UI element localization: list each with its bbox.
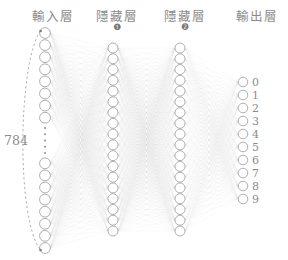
header-label-input-layer: 輸入層 [18,6,88,25]
output-node-label: 6 [252,155,259,166]
neural-network-diagram [0,0,288,260]
hidden1-node [108,183,118,193]
hidden2-node [175,108,185,118]
hidden2-node [175,86,185,96]
input-ellipsis-dot [44,152,46,154]
output-node-label: 8 [252,181,259,192]
output-node-label: 4 [252,129,259,140]
hidden1-node [108,108,118,118]
input-node [40,28,51,39]
hidden2-node [175,118,185,128]
output-node [238,194,248,204]
brace-endpoint [39,30,42,33]
hidden1-node [108,194,118,204]
hidden2-node [175,215,185,225]
hidden1-node [108,97,118,107]
input-ellipsis-dot [44,146,46,148]
input-node [40,76,51,87]
hidden2-node [175,43,185,53]
output-node [238,103,248,113]
input-node [40,194,51,205]
output-node-label: 2 [252,103,259,114]
hidden1-node [108,172,118,182]
output-node-label: 7 [252,168,259,179]
input-node [40,52,51,63]
input-ellipsis-dot [44,127,46,129]
hidden2-node [175,151,185,161]
brace-endpoint [39,249,42,252]
input-node [40,112,51,123]
hidden1-node [108,151,118,161]
hidden2-node [175,183,185,193]
hidden1-node [108,140,118,150]
hidden1-node [108,215,118,225]
hidden1-node [108,75,118,85]
hidden1-node [108,118,118,128]
hidden2-node [175,54,185,64]
hidden1-node [108,86,118,96]
output-node [238,142,248,152]
output-node-label: 1 [252,90,259,101]
hidden1-node [108,65,118,75]
hidden2-node [175,226,185,236]
hidden2-node [175,194,185,204]
input-node [40,170,51,181]
input-ellipsis-dot [44,133,46,135]
input-node [40,231,51,242]
output-node [238,168,248,178]
hidden1-node [108,129,118,139]
output-node [238,155,248,165]
input-node [40,218,51,229]
hidden1-node [108,204,118,214]
hidden2-node [175,204,185,214]
input-node [40,40,51,51]
input-node [40,100,51,111]
hidden1-node [108,43,118,53]
output-node [238,181,248,191]
network-edges [50,33,238,248]
hidden1-node [108,54,118,64]
output-node-label: 0 [252,77,259,88]
hidden1-node [108,161,118,171]
output-node [238,116,248,126]
output-node-label: 3 [252,116,259,127]
hidden1-node [108,226,118,236]
header-label-output-layer: 輸出層 [222,6,288,25]
output-node-label: 9 [252,194,259,205]
hidden2-node [175,129,185,139]
hidden2-node [175,140,185,150]
output-node [238,77,248,87]
hidden2-node [175,161,185,171]
input-size-label: 784 [4,133,28,148]
hidden2-node [175,172,185,182]
header-badge-hidden-layer-1: ❶ [82,22,152,32]
hidden2-node [175,65,185,75]
output-node [238,129,248,139]
input-node [40,182,51,193]
header-badge-hidden-layer-2: ❷ [150,22,220,32]
input-node [40,243,51,254]
hidden2-node [175,75,185,85]
hidden2-node [175,97,185,107]
input-node [40,64,51,75]
input-ellipsis-dot [44,140,46,142]
input-node [40,206,51,217]
output-node [238,90,248,100]
output-node-label: 5 [252,142,259,153]
input-node [40,158,51,169]
input-node [40,88,51,99]
